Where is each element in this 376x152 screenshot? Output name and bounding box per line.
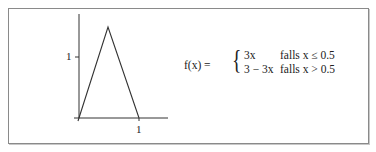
function-plot <box>0 0 376 152</box>
y-tick-label: 1 <box>66 51 72 62</box>
x-tick-label: 1 <box>136 124 142 135</box>
left-brace-icon: { <box>232 46 241 74</box>
formula-lhs: f(x) = <box>184 58 211 72</box>
case-expression: 3 − 3x <box>244 62 274 76</box>
case-expression: 3x <box>244 48 256 62</box>
case-condition: falls x > 0.5 <box>280 62 335 76</box>
case-condition: falls x ≤ 0.5 <box>280 48 335 62</box>
function-curve <box>78 27 139 121</box>
